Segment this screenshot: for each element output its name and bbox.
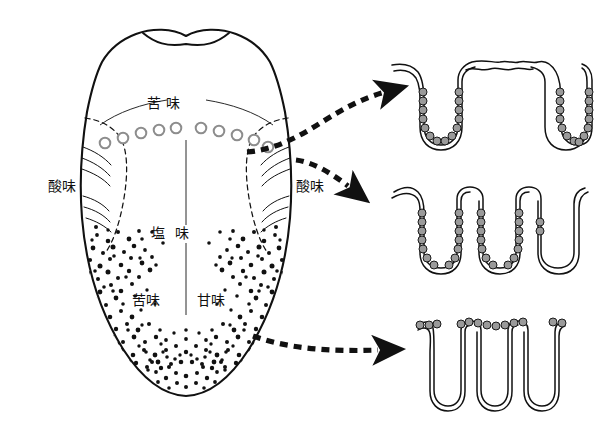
papilla-circle <box>196 123 207 134</box>
label-sweet-bottom-right: 甘味 <box>197 293 226 307</box>
taste-bud-cells <box>418 209 544 269</box>
foliate-papilla-cross-section <box>392 187 588 274</box>
circumvallate-papilla-cross-section <box>392 61 593 150</box>
papilla-circle <box>171 123 182 134</box>
label-bitter-top: 苦 味 <box>147 96 181 110</box>
taste-bud-cells <box>416 318 566 330</box>
label-bitter-bottom-left: 苦味 <box>132 293 161 307</box>
label-sour-right: 酸味 <box>296 179 325 193</box>
papilla-circle <box>136 128 147 139</box>
label-sour-left: 酸味 <box>48 179 77 193</box>
papilla-circle <box>214 126 225 137</box>
papilla-circle <box>232 130 243 141</box>
arrow-to-bottom-diagram <box>253 336 378 350</box>
figure-canvas: 苦 味 酸味 酸味 塩 味 苦味 甘味 <box>0 0 594 433</box>
taste-bud-cells <box>419 88 593 146</box>
papilla-circle <box>118 133 129 144</box>
fungiform-papilla-cross-section <box>416 318 566 411</box>
label-salty-middle: 塩 味 <box>151 226 190 240</box>
papilla-circle <box>100 138 111 149</box>
papilla-circle <box>249 135 260 146</box>
diagram-svg <box>0 0 594 433</box>
papilla-circle <box>154 125 165 136</box>
